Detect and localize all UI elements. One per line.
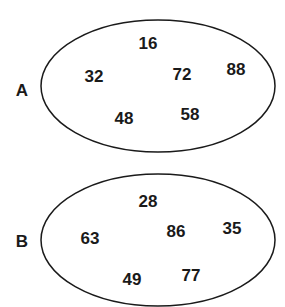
set-element: 86 (167, 223, 186, 240)
set-element: 58 (181, 106, 200, 123)
set-element: 28 (139, 193, 158, 210)
set-label-a: A (16, 82, 28, 99)
set-element: 49 (123, 271, 142, 288)
set-element: 48 (115, 110, 134, 127)
set-a-ellipse (41, 20, 275, 152)
set-element: 88 (227, 61, 246, 78)
set-element: 16 (139, 35, 158, 52)
set-label-b: B (16, 233, 28, 250)
set-element: 35 (223, 220, 242, 237)
set-element: 32 (85, 68, 104, 85)
set-element: 63 (81, 230, 100, 247)
set-element: 77 (182, 267, 201, 284)
set-b-ellipse (41, 174, 275, 306)
set-element: 72 (173, 66, 192, 83)
